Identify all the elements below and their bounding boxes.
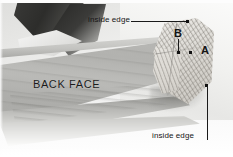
marker-dot-point-a [189, 51, 192, 54]
marker-dot-inside-edge-top [186, 20, 189, 23]
annotated-photo-figure: inside edge B A BACK FACE inside edge [0, 0, 233, 157]
page-margin-bottom [0, 147, 233, 157]
label-point-b: B [174, 28, 182, 39]
leader-line-inside-edge-bottom [207, 86, 208, 140]
marker-dot-point-b [177, 51, 180, 54]
label-inside-edge-top: inside edge [88, 16, 130, 24]
page-margin-top [0, 0, 233, 3]
label-back-face: BACK FACE [33, 79, 100, 90]
page-margin-left [0, 0, 3, 157]
label-inside-edge-bottom: inside edge [152, 132, 194, 140]
label-point-a: A [201, 45, 209, 56]
leader-line-inside-edge-top [131, 21, 188, 22]
